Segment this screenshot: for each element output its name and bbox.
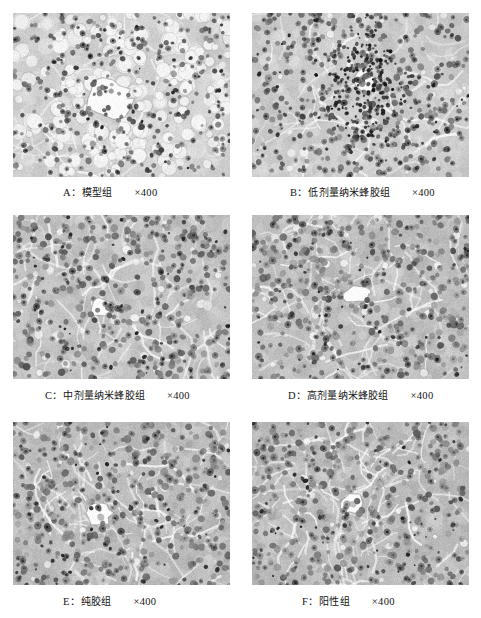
micrograph-panel-a <box>13 13 230 177</box>
caption-magnification-e: ×400 <box>111 596 156 607</box>
micrograph-canvas-b <box>252 13 469 177</box>
figure-panel-grid: A：模型组×400 B：低剂量纳米蜂胶组×400 C：中剂量纳米蜂胶组×400 … <box>0 0 481 618</box>
micrograph-canvas-f <box>252 422 469 585</box>
micrograph-panel-f <box>252 422 469 585</box>
micrograph-panel-b <box>252 13 469 177</box>
caption-label-c: C： <box>45 390 62 401</box>
caption-magnification-a: ×400 <box>113 187 158 198</box>
caption-group-e: 纯胶组 <box>80 596 112 607</box>
caption-group-f: 阳性组 <box>318 596 350 607</box>
caption-label-e: E： <box>63 596 80 607</box>
caption-label-f: F： <box>302 596 318 607</box>
micrograph-canvas-d <box>252 215 469 379</box>
caption-group-b: 低剂量纳米蜂胶组 <box>307 187 390 198</box>
caption-panel-d: D：高剂量纳米蜂胶组×400 <box>288 387 433 402</box>
caption-panel-a: A：模型组×400 <box>63 184 157 199</box>
caption-group-c: 中剂量纳米蜂胶组 <box>62 390 145 401</box>
caption-label-a: A： <box>63 187 81 198</box>
micrograph-panel-e <box>13 422 230 585</box>
caption-panel-b: B：低剂量纳米蜂胶组×400 <box>290 184 435 199</box>
caption-magnification-b: ×400 <box>390 187 435 198</box>
caption-group-a: 模型组 <box>81 187 113 198</box>
micrograph-panel-c <box>13 215 230 379</box>
caption-magnification-d: ×400 <box>389 390 434 401</box>
caption-group-d: 高剂量纳米蜂胶组 <box>306 390 389 401</box>
micrograph-canvas-a <box>13 13 230 177</box>
micrograph-panel-d <box>252 215 469 379</box>
caption-magnification-c: ×400 <box>145 390 190 401</box>
caption-panel-c: C：中剂量纳米蜂胶组×400 <box>45 387 190 402</box>
caption-label-d: D： <box>288 390 306 401</box>
caption-panel-e: E：纯胶组×400 <box>63 593 156 608</box>
caption-label-b: B： <box>290 187 307 198</box>
micrograph-canvas-c <box>13 215 230 379</box>
micrograph-canvas-e <box>13 422 230 585</box>
caption-panel-f: F：阳性组×400 <box>302 593 395 608</box>
caption-magnification-f: ×400 <box>350 596 395 607</box>
